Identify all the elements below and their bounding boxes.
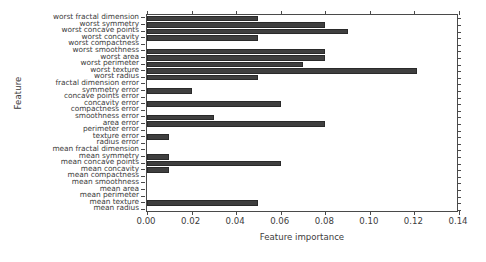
- y-tick-label: concave points error: [64, 93, 139, 100]
- y-tick-mark: [141, 149, 145, 150]
- y-tick-mark: [141, 17, 145, 18]
- y-tick-mark: [141, 182, 145, 183]
- y-tick-label: worst smoothness: [72, 47, 139, 54]
- y-tick-mark: [141, 97, 145, 98]
- bar: [147, 101, 281, 106]
- y-tick-mark: [141, 64, 145, 65]
- x-tick-mark: [281, 211, 282, 215]
- y-tick-label: mean concave points: [61, 159, 139, 166]
- x-tick-mark: [236, 211, 237, 215]
- y-tick-mark: [141, 90, 145, 91]
- y-tick-mark-right: [457, 18, 461, 19]
- x-tick-mark: [414, 211, 415, 215]
- bar: [147, 75, 258, 80]
- y-tick-mark: [141, 31, 145, 32]
- y-tick-label: worst concave points: [61, 27, 139, 34]
- y-tick-mark-right: [457, 203, 461, 204]
- x-tick-mark: [325, 211, 326, 215]
- y-tick-mark-right: [457, 91, 461, 92]
- y-tick-label: mean fractal dimension: [52, 146, 139, 153]
- x-axis-tick-labels: 0.000.020.040.060.080.100.120.14: [146, 216, 458, 228]
- y-tick-mark-right: [457, 164, 461, 165]
- y-tick-mark-right: [457, 124, 461, 125]
- y-tick-label: worst radius: [94, 73, 139, 80]
- bar: [147, 134, 169, 139]
- x-tick-label: 0.08: [315, 216, 334, 226]
- y-tick-mark: [141, 123, 145, 124]
- y-tick-mark-right: [457, 137, 461, 138]
- y-tick-mark-right: [457, 210, 461, 211]
- y-tick-label: mean perimeter: [80, 192, 139, 199]
- y-tick-mark-right: [457, 84, 461, 85]
- bar: [147, 88, 192, 93]
- y-tick-mark: [141, 196, 145, 197]
- bar: [147, 200, 258, 205]
- y-tick-mark: [141, 103, 145, 104]
- bar: [147, 62, 303, 67]
- x-tick-mark-top: [459, 11, 460, 15]
- y-tick-mark: [141, 136, 145, 137]
- x-tick-mark-top: [370, 11, 371, 15]
- x-tick-mark: [370, 211, 371, 215]
- x-tick-mark: [147, 211, 148, 215]
- y-tick-label: worst texture: [90, 67, 139, 74]
- y-tick-label: area error: [103, 120, 139, 127]
- y-tick-mark-right: [457, 111, 461, 112]
- x-tick-mark-top: [236, 11, 237, 15]
- y-tick-mark: [141, 116, 145, 117]
- y-tick-label: symmetry error: [82, 87, 139, 94]
- y-tick-mark-right: [457, 183, 461, 184]
- y-tick-label: worst perimeter: [80, 60, 139, 67]
- y-tick-mark-right: [457, 177, 461, 178]
- y-tick-mark-right: [457, 38, 461, 39]
- x-tick-label: 0.04: [226, 216, 245, 226]
- y-tick-mark-right: [457, 98, 461, 99]
- x-tick-mark-top: [147, 11, 148, 15]
- bar: [147, 55, 325, 60]
- x-tick-mark: [192, 211, 193, 215]
- x-axis-title: Feature importance: [146, 232, 458, 242]
- y-tick-label: compactness error: [71, 106, 139, 113]
- bar: [147, 121, 325, 126]
- y-tick-label: fractal dimension error: [56, 80, 139, 87]
- y-tick-label: concavity error: [84, 100, 139, 107]
- y-axis-tick-labels: mean radiusmean texturemean perimetermea…: [0, 14, 143, 212]
- y-tick-mark: [141, 110, 145, 111]
- bar: [147, 35, 258, 40]
- y-tick-mark: [141, 24, 145, 25]
- bar: [147, 68, 417, 73]
- x-tick-mark-top: [414, 11, 415, 15]
- y-tick-mark: [141, 143, 145, 144]
- feature-importance-chart: Feature mean radiusmean texturemean peri…: [0, 0, 486, 262]
- y-tick-label: mean concavity: [81, 166, 139, 173]
- y-tick-mark: [141, 130, 145, 131]
- y-tick-mark: [141, 83, 145, 84]
- y-tick-label: worst concavity: [81, 34, 139, 41]
- y-tick-mark: [141, 163, 145, 164]
- bar: [147, 16, 258, 21]
- y-tick-mark-right: [457, 51, 461, 52]
- y-tick-label: perimeter error: [83, 126, 139, 133]
- y-tick-label: mean symmetry: [79, 153, 139, 160]
- bar: [147, 161, 281, 166]
- y-tick-mark: [141, 169, 145, 170]
- y-tick-mark-right: [457, 78, 461, 79]
- y-tick-mark: [141, 37, 145, 38]
- y-tick-label: mean compactness: [68, 172, 139, 179]
- y-tick-mark-right: [457, 117, 461, 118]
- y-tick-label: worst compactness: [68, 40, 139, 47]
- y-tick-mark-right: [457, 25, 461, 26]
- y-tick-mark-right: [457, 197, 461, 198]
- x-tick-mark-top: [325, 11, 326, 15]
- y-tick-mark: [141, 50, 145, 51]
- y-tick-mark: [141, 176, 145, 177]
- x-tick-label: 0.12: [404, 216, 423, 226]
- y-tick-mark: [141, 44, 145, 45]
- y-tick-mark-right: [457, 71, 461, 72]
- y-tick-mark: [141, 189, 145, 190]
- plot-area: [146, 14, 458, 212]
- y-tick-mark: [141, 202, 145, 203]
- x-tick-label: 0.10: [359, 216, 378, 226]
- y-tick-mark: [141, 77, 145, 78]
- y-tick-mark-right: [457, 58, 461, 59]
